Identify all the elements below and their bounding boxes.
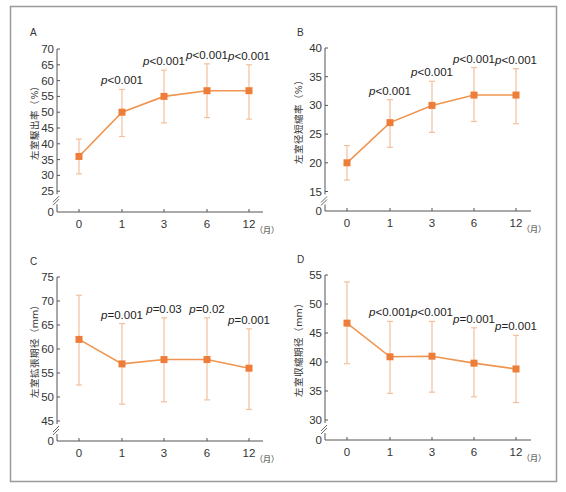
x-tick-label: 12 <box>243 447 256 459</box>
x-tick-label: 12 <box>510 217 523 229</box>
x-tick-label: 3 <box>429 217 435 229</box>
y-tick-label: 50 <box>41 106 54 118</box>
x-tick-label: 1 <box>119 447 125 459</box>
y-tick-label: 65 <box>41 319 54 331</box>
panel-c: C左室拡張期径（mm）045505560657075013612（月）p=0.0… <box>29 256 279 464</box>
x-tick-label: 1 <box>119 218 125 230</box>
y-tick-label: 30 <box>309 414 322 426</box>
data-marker <box>246 87 253 94</box>
x-tick-label: 0 <box>344 446 350 458</box>
y-tick-label: 45 <box>309 327 322 339</box>
p-value-label: p<0.001 <box>368 85 411 97</box>
p-value-label: p=0.001 <box>494 320 537 332</box>
data-marker <box>119 109 126 116</box>
p-value-label: p=0.001 <box>100 309 143 321</box>
p-value-label: p=0.001 <box>452 313 495 325</box>
y-axis-label: 左室拡張期径（mm） <box>29 300 40 399</box>
y-tick-label: 0 <box>48 435 54 447</box>
y-tick-label: 50 <box>41 391 54 403</box>
x-tick-label: 0 <box>76 218 82 230</box>
y-tick-label: 55 <box>41 90 54 102</box>
y-tick-label: 70 <box>41 43 54 55</box>
data-marker <box>246 365 253 372</box>
y-tick-label: 55 <box>309 269 322 281</box>
y-tick-label: 0 <box>48 206 54 218</box>
x-tick-label: 1 <box>387 217 393 229</box>
p-value-label: p=0.03 <box>145 303 182 315</box>
y-tick-label: 45 <box>41 415 54 427</box>
data-marker <box>161 356 168 363</box>
p-value-label: p<0.001 <box>185 49 228 61</box>
y-tick-label: 35 <box>41 154 54 166</box>
data-marker <box>344 320 351 327</box>
data-marker <box>513 92 520 99</box>
y-tick-label: 30 <box>41 169 54 181</box>
p-value-label: p<0.001 <box>410 306 453 318</box>
data-marker <box>429 102 436 109</box>
y-tick-label: 0 <box>316 434 322 446</box>
data-marker <box>471 360 478 367</box>
y-tick-label: 60 <box>41 343 54 355</box>
x-tick-label: 6 <box>471 446 477 458</box>
x-unit-label: （月） <box>522 225 546 234</box>
data-marker <box>387 119 394 126</box>
data-marker <box>513 365 520 372</box>
data-marker <box>344 159 351 166</box>
y-tick-label: 65 <box>41 59 54 71</box>
x-tick-label: 3 <box>161 447 167 459</box>
axis-break-mark <box>53 199 59 205</box>
y-tick-label: 35 <box>309 385 322 397</box>
p-value-label: p<0.001 <box>368 306 411 318</box>
x-tick-label: 0 <box>344 217 350 229</box>
figure-canvas: A左室駆出率（%）025303540455055606570013612（月）p… <box>0 0 566 492</box>
x-unit-label: （月） <box>255 226 279 235</box>
y-tick-label: 25 <box>309 128 322 140</box>
p-value-label: p<0.001 <box>142 55 185 67</box>
y-tick-label: 70 <box>41 295 54 307</box>
p-value-label: p=0.001 <box>227 314 270 326</box>
data-marker <box>76 153 83 160</box>
panel-a: A左室駆出率（%）025303540455055606570013612（月）p… <box>29 27 279 235</box>
x-tick-label: 12 <box>510 446 523 458</box>
y-tick-label: 30 <box>309 99 322 111</box>
data-marker <box>119 360 126 367</box>
y-tick-label: 75 <box>41 271 54 283</box>
y-tick-label: 20 <box>309 157 322 169</box>
x-unit-label: （月） <box>255 455 279 464</box>
data-marker <box>429 353 436 360</box>
panel-letter: D <box>297 254 304 265</box>
x-tick-label: 6 <box>204 218 210 230</box>
data-marker <box>161 93 168 100</box>
panel-letter: A <box>30 27 37 38</box>
y-tick-label: 45 <box>41 122 54 134</box>
y-tick-label: 55 <box>41 367 54 379</box>
x-tick-label: 3 <box>161 218 167 230</box>
panel-letter: C <box>30 256 37 267</box>
data-marker <box>387 353 394 360</box>
y-tick-label: 25 <box>41 185 54 197</box>
p-value-label: p<0.001 <box>494 54 537 66</box>
x-tick-label: 6 <box>204 447 210 459</box>
y-axis-label: 左室収縮期径（mm） <box>293 298 304 397</box>
x-tick-label: 6 <box>471 217 477 229</box>
x-tick-label: 1 <box>387 446 393 458</box>
y-tick-label: 0 <box>316 205 322 217</box>
p-value-label: p<0.001 <box>227 50 270 62</box>
y-tick-label: 40 <box>41 138 54 150</box>
y-axis-label: 左室駆出率（%） <box>29 81 40 160</box>
y-tick-label: 60 <box>41 75 54 87</box>
y-tick-label: 50 <box>309 298 322 310</box>
x-tick-label: 0 <box>76 447 82 459</box>
y-tick-label: 40 <box>309 42 322 54</box>
y-axis-label: 左室径短縮率（%） <box>293 75 304 164</box>
p-value-label: p=0.02 <box>188 303 225 315</box>
y-tick-label: 15 <box>309 186 322 198</box>
p-value-label: p<0.001 <box>410 66 453 78</box>
panel-letter: B <box>297 27 304 38</box>
panel-b: B左室径短縮率（%）0152025303540013612（月）p<0.001p… <box>293 27 546 234</box>
y-tick-label: 35 <box>309 71 322 83</box>
data-marker <box>204 356 211 363</box>
p-value-label: p<0.001 <box>100 74 143 86</box>
x-unit-label: （月） <box>522 454 546 463</box>
x-tick-label: 3 <box>429 446 435 458</box>
